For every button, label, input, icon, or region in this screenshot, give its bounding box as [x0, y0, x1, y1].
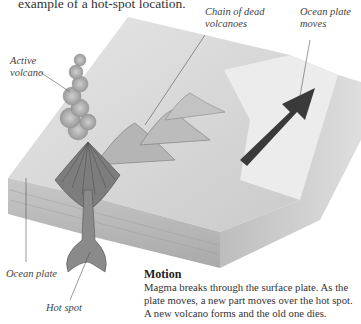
label-line: volcanoes: [205, 18, 265, 30]
label-line: moves: [300, 18, 351, 30]
label-line: Active: [10, 55, 43, 67]
label-line: volcano: [10, 67, 43, 79]
label-ocean-plate-moves: Ocean plate moves: [300, 6, 351, 30]
label-line: Ocean plate: [300, 6, 351, 18]
label-line: Chain of dead: [205, 6, 265, 18]
label-ocean-plate: Ocean plate: [6, 268, 57, 280]
label-chain-of-dead-volcanoes: Chain of dead volcanoes: [205, 6, 265, 30]
label-active-volcano: Active volcano: [10, 55, 43, 79]
label-hot-spot: Hot spot: [46, 302, 82, 314]
motion-body: Magma breaks through the surface plate. …: [144, 281, 359, 320]
motion-caption: Motion Magma breaks through the surface …: [144, 268, 359, 320]
motion-title: Motion: [144, 268, 359, 281]
